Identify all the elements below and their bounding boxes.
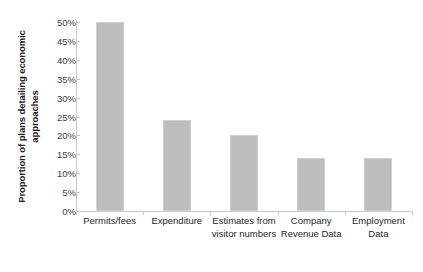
x-axis-tick-mark (345, 211, 346, 215)
bar (96, 22, 124, 211)
y-axis-tick-label: 30% (36, 92, 76, 103)
x-axis-category-label: Permits/fees (76, 215, 143, 228)
bar-series (76, 22, 412, 211)
x-axis-tick-mark (210, 211, 211, 215)
x-axis-tick-mark (143, 211, 144, 215)
bar (230, 135, 258, 211)
x-axis-category-label: Estimates from visitor numbers (210, 215, 277, 240)
y-axis-tick-label: 40% (36, 54, 76, 65)
y-axis-tick-label: 20% (36, 130, 76, 141)
y-axis-tick-label: 50% (36, 17, 76, 28)
x-axis-category-label: Employment Data (345, 215, 412, 240)
y-axis-tick-label: 15% (36, 149, 76, 160)
x-axis-tick-mark (76, 211, 77, 215)
x-axis-category-label: Expenditure (143, 215, 210, 228)
x-axis-line (76, 211, 412, 212)
bar (364, 158, 392, 211)
x-axis-tick-mark (278, 211, 279, 215)
y-axis-tick-label: 0% (36, 206, 76, 217)
y-axis-tick-label: 25% (36, 111, 76, 122)
y-axis-tick-label: 5% (36, 187, 76, 198)
bar (297, 158, 325, 211)
x-axis-category-labels: Permits/feesExpenditureEstimates from vi… (76, 215, 412, 272)
bar-chart: Proportion of plans detailing economic a… (0, 0, 423, 272)
y-axis-tick-label: 35% (36, 73, 76, 84)
x-axis-category-label: Company Revenue Data (278, 215, 345, 240)
y-axis-tick-label: 10% (36, 168, 76, 179)
y-axis-tick-label: 45% (36, 35, 76, 46)
bar (163, 120, 191, 211)
x-axis-tick-mark (412, 211, 413, 215)
y-axis-tick-labels: 50%45%40%35%30%25%20%15%10%5%0% (28, 0, 76, 272)
